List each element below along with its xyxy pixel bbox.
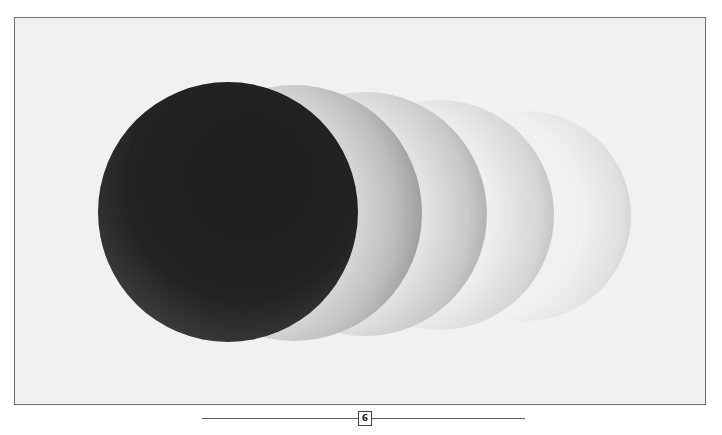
page-number: 6 [358, 411, 372, 426]
dark-sphere-rim-light [98, 82, 358, 342]
illustration-frame [14, 17, 706, 405]
book-page: 6 [0, 0, 722, 435]
spheres-illustration [15, 18, 705, 404]
